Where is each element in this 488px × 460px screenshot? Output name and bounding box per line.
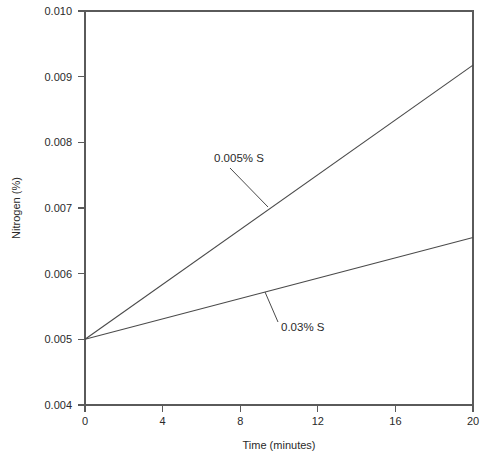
x-tick-label-16: 16 <box>389 415 401 427</box>
y-tick-label-0.010: 0.010 <box>44 5 72 17</box>
annotation-label-0.03-percent-S: 0.03% S <box>281 321 325 333</box>
y-tick-label-0.005: 0.005 <box>44 333 72 345</box>
x-axis-title: Time (minutes) <box>243 439 316 451</box>
chart-background <box>0 0 488 460</box>
y-axis-title: Nitrogen (%) <box>10 177 22 239</box>
y-tick-label-0.004: 0.004 <box>44 399 72 411</box>
y-tick-label-0.006: 0.006 <box>44 268 72 280</box>
x-tick-label-12: 12 <box>312 415 324 427</box>
y-tick-label-0.009: 0.009 <box>44 71 72 83</box>
chart-figure: 0.010 0.009 0.008 0.007 0.006 0.005 0.00… <box>0 0 488 460</box>
x-tick-label-20: 20 <box>467 415 479 427</box>
nitrogen-vs-time-line-chart: 0.010 0.009 0.008 0.007 0.006 0.005 0.00… <box>0 0 488 460</box>
y-tick-label-0.008: 0.008 <box>44 136 72 148</box>
annotation-label-0.005-percent-S: 0.005% S <box>214 152 264 164</box>
x-tick-label-8: 8 <box>237 415 243 427</box>
x-tick-label-4: 4 <box>160 415 166 427</box>
y-tick-label-0.007: 0.007 <box>44 202 72 214</box>
x-tick-label-0: 0 <box>82 415 88 427</box>
